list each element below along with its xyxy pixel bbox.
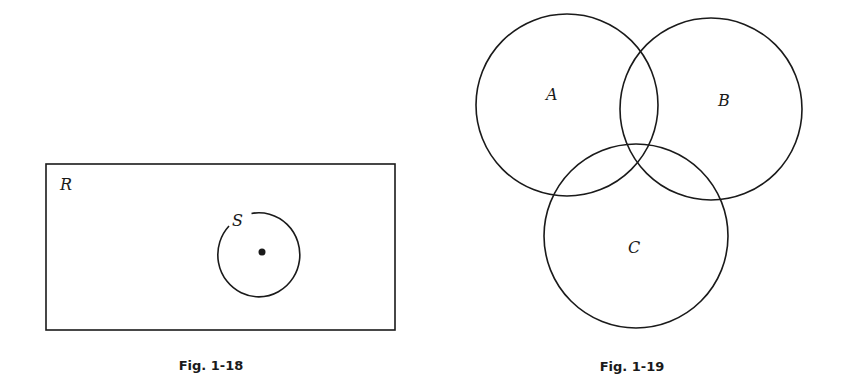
set-c-circle [544, 144, 728, 328]
set-c-label: C [628, 238, 640, 257]
diagram-canvas: R S Fig. 1-18 A B C Fig. 1-19 [0, 0, 846, 376]
set-a-label: A [544, 85, 558, 104]
figure-caption-1-18: Fig. 1-18 [179, 358, 244, 373]
set-b-label: B [717, 91, 730, 110]
figure-1-19: A B C Fig. 1-19 [476, 14, 802, 374]
set-b-circle [620, 18, 802, 200]
set-a-circle [476, 14, 658, 196]
region-r-rectangle [46, 164, 395, 330]
center-point [259, 249, 266, 256]
figure-caption-1-19: Fig. 1-19 [600, 359, 665, 374]
set-s-circle [218, 213, 300, 297]
region-r-label: R [59, 175, 72, 194]
set-s-label: S [232, 211, 243, 230]
figure-1-18: R S Fig. 1-18 [46, 164, 395, 373]
